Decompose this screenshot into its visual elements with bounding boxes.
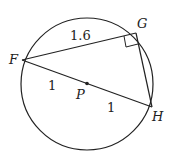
label-ph-length: 1: [107, 100, 115, 115]
segment-gh: [136, 33, 152, 107]
label-fg-length: 1.6: [70, 28, 91, 43]
geometry-diagram: F G H P 1.6 1 1: [0, 0, 173, 166]
label-g: G: [137, 16, 147, 31]
right-angle-marker: [124, 36, 138, 47]
center-point: [85, 82, 89, 86]
label-fp-length: 1: [48, 78, 56, 93]
label-p: P: [75, 87, 85, 102]
label-f: F: [8, 52, 19, 67]
label-h: H: [151, 109, 164, 124]
